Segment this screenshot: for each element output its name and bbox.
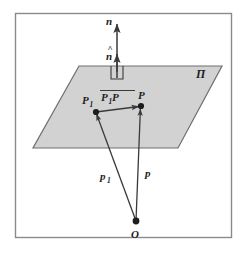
point-p1-label: P <box>82 94 89 106</box>
inplane-vector-label-second: P <box>112 91 119 103</box>
figure-canvas: n ^ n Π P 1 P P 1 P p 1 p O <box>0 0 246 254</box>
point-p-dot <box>138 103 144 109</box>
geometry-figure-plane-normal: n ^ n Π P 1 P P 1 P p 1 p O <box>0 0 246 254</box>
origin-label: O <box>131 228 139 240</box>
plane-surface <box>33 66 222 148</box>
position-vector-p1-subscript: 1 <box>107 176 111 185</box>
point-p-label: P <box>138 89 145 101</box>
point-p1-subscript: 1 <box>90 100 94 109</box>
unit-normal-label: n <box>106 50 112 62</box>
normal-vector-label: n <box>106 15 112 27</box>
point-p1-dot <box>93 109 99 115</box>
inplane-vector-label-first: P <box>101 91 108 103</box>
position-vector-p1-label: p <box>99 170 106 182</box>
point-origin-dot <box>133 218 140 225</box>
position-vector-p-label: p <box>144 167 151 179</box>
plane-label: Π <box>195 67 206 81</box>
